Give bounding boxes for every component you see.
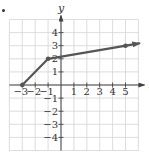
x-tick-label: 5 <box>122 86 128 97</box>
y-tick-label: −1 <box>43 93 58 104</box>
x-tick-label: 1 <box>71 86 77 97</box>
x-tick-label: 2 <box>84 86 90 97</box>
y-tick-label: 1 <box>52 66 58 77</box>
y-axis-label: y <box>57 2 65 15</box>
coordinate-plane-chart: −3−2−1123454321−1−2−3−4xy <box>0 0 149 163</box>
x-tick-label: 4 <box>109 86 115 97</box>
y-tick-label: 3 <box>52 40 58 51</box>
y-tick-label: −4 <box>43 132 58 143</box>
y-tick-label: −2 <box>43 106 58 117</box>
closed-dot <box>20 83 25 88</box>
x-tick-label: 3 <box>97 86 103 97</box>
closed-dot <box>46 57 51 62</box>
y-tick-label: 4 <box>52 27 58 38</box>
data-series <box>20 43 139 87</box>
y-tick-label: −3 <box>43 119 58 130</box>
x-axis-label: x <box>148 78 149 91</box>
axes <box>9 16 144 151</box>
closed-dot <box>123 43 128 48</box>
